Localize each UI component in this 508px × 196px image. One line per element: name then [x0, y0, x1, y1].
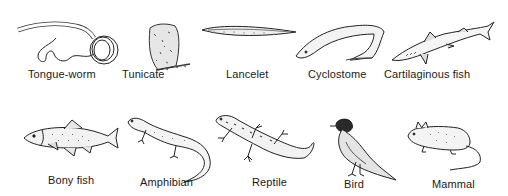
label-amphibian: Amphibian: [140, 176, 193, 188]
bony-fish-figure: Bony fish: [22, 120, 122, 190]
label-mammal: Mammal: [432, 178, 475, 190]
cartilaginous-fish-figure: Cartilaginous fish: [384, 20, 508, 75]
mammal-figure: Mammal: [406, 124, 508, 192]
tongue-worm-icon: [16, 18, 111, 68]
bird-figure: Bird: [330, 118, 400, 192]
label-lancelet: Lancelet: [226, 68, 268, 80]
label-cyclostome: Cyclostome: [308, 68, 366, 80]
tunicate-icon: [120, 20, 205, 75]
label-tongue-worm: Tongue-worm: [28, 68, 96, 80]
shark-icon: [384, 20, 508, 75]
label-bony-fish: Bony fish: [48, 174, 94, 186]
cyclostome-figure: Cyclostome: [294, 20, 394, 75]
cyclostome-icon: [294, 20, 394, 75]
amphibian-figure: Amphibian: [126, 116, 216, 192]
label-reptile: Reptile: [252, 176, 287, 188]
tunicate-figure: Tunicate: [120, 20, 205, 75]
lancelet-icon: [200, 22, 300, 72]
robin-icon: [330, 118, 400, 192]
reptile-figure: Reptile: [212, 114, 322, 192]
lancelet-figure: Lancelet: [200, 22, 300, 72]
label-cartilaginous-fish: Cartilaginous fish: [384, 68, 470, 80]
tongue-worm-figure: Tongue-worm: [16, 18, 111, 68]
label-tunicate: Tunicate: [122, 68, 165, 80]
label-bird: Bird: [344, 178, 364, 190]
